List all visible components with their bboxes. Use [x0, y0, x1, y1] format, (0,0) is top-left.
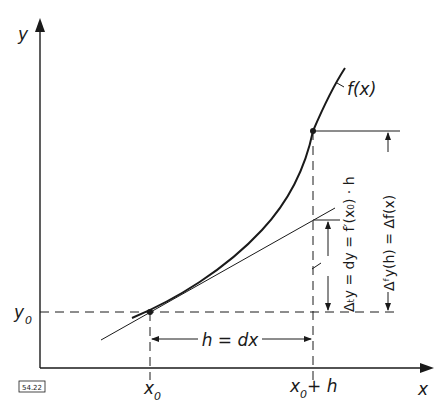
- figure-id-badge: 54.22: [19, 381, 45, 392]
- x0-label: x 0: [143, 378, 161, 403]
- x-axis-arrow-icon: [420, 363, 434, 373]
- y-axis-arrow-icon: [35, 18, 45, 32]
- tangent-line: [101, 208, 335, 340]
- y-axis-label: y: [17, 24, 29, 44]
- y-axis: [35, 18, 45, 368]
- function-label: f(x): [347, 79, 376, 99]
- x0-plus-h-label: x 0 + h: [289, 376, 337, 401]
- point-x0-y0: [147, 309, 153, 315]
- differential-arrows: [312, 222, 328, 310]
- increment-label: h = dx: [202, 330, 260, 350]
- svg-text:y: y: [13, 302, 25, 322]
- svg-text:0: 0: [25, 314, 32, 327]
- svg-text:+ h: + h: [307, 376, 337, 396]
- x-axis-label: x: [417, 379, 429, 399]
- differential-label: Δₜy = dy = f′(x₀) · h: [341, 176, 357, 312]
- derivative-differential-diagram: y x f(x) h = dx: [0, 0, 441, 406]
- x-axis: [40, 363, 434, 373]
- y0-label: y 0: [13, 302, 32, 327]
- difference-label: Δᶠy(h) = Δf(x): [381, 195, 397, 291]
- svg-text:54.22: 54.22: [22, 384, 42, 392]
- svg-text:0: 0: [300, 388, 307, 401]
- svg-text:0: 0: [154, 390, 161, 403]
